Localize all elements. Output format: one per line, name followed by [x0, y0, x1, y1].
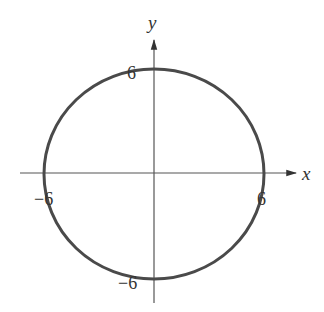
tick-label-right: 6 — [257, 189, 266, 209]
x-axis-label: x — [301, 163, 311, 184]
tick-label-bottom: −6 — [118, 273, 137, 293]
tick-label-left: −6 — [34, 189, 53, 209]
circle-diagram: y x 6 −6 6 −6 — [0, 0, 324, 312]
tick-label-top: 6 — [127, 63, 136, 83]
y-axis-label: y — [146, 12, 157, 33]
